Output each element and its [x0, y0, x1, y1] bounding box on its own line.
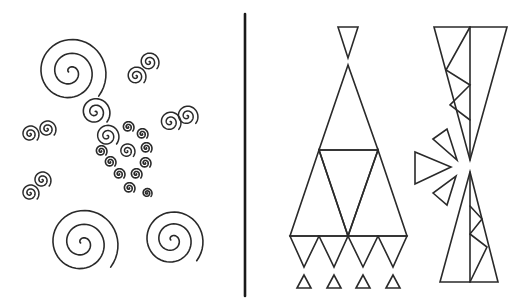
spiral-shape	[23, 126, 39, 140]
triangles-panel	[290, 27, 507, 288]
diagram-canvas	[0, 0, 518, 305]
spiral-shape	[53, 210, 118, 268]
spiral-shape	[105, 157, 116, 166]
triangle-row3-inv-3	[348, 236, 378, 267]
spiral-shape	[96, 146, 107, 155]
spiral-shape	[121, 144, 135, 156]
line-tall-upright-zigzag	[470, 206, 487, 282]
triangle-row2-right	[348, 150, 407, 236]
triangle-bottom-small-3	[356, 275, 370, 288]
spiral-shape	[98, 125, 119, 144]
triangle-bottom-small-2	[327, 275, 341, 288]
triangle-top-small-inverted	[338, 27, 358, 58]
spiral-shape	[83, 99, 110, 122]
spiral-shape	[123, 122, 134, 131]
triangle-bottom-small-1	[297, 275, 311, 288]
spiral-shape	[178, 106, 197, 123]
spiral-shape	[40, 121, 56, 135]
triangle-row3-inv-4	[378, 236, 407, 267]
triangle-row2-left	[290, 150, 348, 236]
spiral-shape	[23, 185, 39, 199]
spiral-shape	[140, 158, 151, 167]
spiral-shape	[35, 172, 51, 186]
triangle-side-lower	[433, 176, 456, 205]
triangle-bottom-small-4	[386, 275, 400, 288]
spiral-shape	[141, 143, 152, 152]
triangle-tall-upright	[440, 172, 498, 282]
figure-svg	[0, 0, 518, 305]
triangle-row3-inv-1	[290, 236, 319, 267]
spiral-shape	[141, 53, 159, 69]
spiral-shape	[114, 169, 125, 178]
triangle-row2-middle-inverted	[319, 150, 378, 236]
triangle-side-left	[415, 152, 451, 184]
spiral-shape	[41, 39, 106, 97]
spiral-shape	[128, 67, 146, 83]
triangle-side-upper	[433, 129, 457, 160]
spirals-panel	[23, 39, 203, 268]
spiral-shape	[147, 212, 203, 262]
spiral-shape	[137, 129, 148, 138]
spiral-shape	[131, 169, 142, 178]
triangle-row3-inv-2	[319, 236, 348, 267]
spiral-shape	[124, 183, 135, 192]
line-tall-inverted-zigzag	[446, 27, 470, 120]
triangle-apex-triangle	[319, 65, 378, 150]
spiral-shape	[143, 189, 152, 197]
